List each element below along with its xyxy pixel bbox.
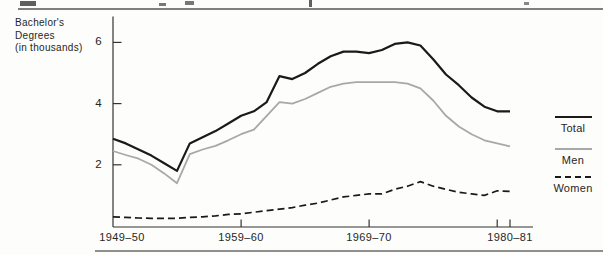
legend-label-women: Women	[551, 182, 595, 194]
figure-bachelors-degrees-chart: Bachelor's Degrees (in thousands) 6 4 2 …	[0, 0, 603, 255]
chart-svg	[0, 0, 603, 255]
series-line-women	[113, 182, 510, 219]
legend-label-men: Men	[551, 154, 595, 166]
legend-item-women: Women	[551, 176, 595, 194]
legend-label-total: Total	[551, 122, 595, 134]
series-line-total	[113, 42, 510, 171]
legend-item-total: Total	[551, 116, 595, 134]
legend-item-men: Men	[551, 148, 595, 166]
y-tick-marks	[113, 42, 122, 164]
axes	[113, 17, 533, 228]
x-tick-marks	[241, 220, 510, 228]
legend-line-women-icon	[555, 176, 592, 178]
legend-line-men-icon	[555, 148, 592, 150]
chart-series	[113, 42, 510, 218]
legend-line-total-icon	[555, 116, 592, 118]
